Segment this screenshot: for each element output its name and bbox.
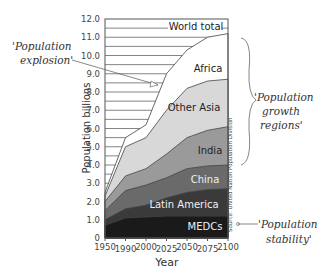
y-tick-label: 10.0 xyxy=(81,51,100,61)
growth-annotation-line3: regions' xyxy=(260,119,303,131)
world-total-label: World total xyxy=(169,21,224,32)
x-tick-label: 1990 xyxy=(115,244,137,254)
india-label: India xyxy=(198,145,223,156)
explosion-annotation-line1: 'Population xyxy=(12,40,72,52)
chart-root: 01.02.03.04.05.06.07.08.09.010.011.012.0… xyxy=(0,0,334,280)
x-axis-ticks: 1950199020002025205020752100 xyxy=(94,238,239,254)
africa-label: Africa xyxy=(194,63,223,74)
x-tick-label: 2050 xyxy=(176,242,198,252)
x-tick-label: 2000 xyxy=(135,242,157,252)
y-tick-label: 12.0 xyxy=(81,14,100,24)
x-tick-label: 1950 xyxy=(94,242,116,252)
y-tick-label: 2.0 xyxy=(86,197,100,207)
y-axis-label: Population billions xyxy=(81,83,92,174)
explosion-annotation-line2: explosion' xyxy=(20,54,73,66)
medcs-label: MEDCs xyxy=(188,221,223,232)
latin-america-label: Latin America xyxy=(149,199,218,210)
growth-annotation-line1: 'Population xyxy=(254,91,314,103)
y-tick-label: 11.0 xyxy=(81,32,100,42)
other-asia-label: Other Asia xyxy=(168,102,221,113)
x-tick-label: 2025 xyxy=(156,244,178,254)
x-tick-label: 2075 xyxy=(197,244,219,254)
stability-annotation-line1: 'Population xyxy=(258,218,318,230)
y-tick-label: 9.0 xyxy=(86,69,100,79)
stacked-area-chart: 01.02.03.04.05.06.07.08.09.010.011.012.0… xyxy=(0,0,334,280)
x-axis-label: Year xyxy=(154,256,179,269)
growth-annotation-line2: growth xyxy=(262,105,300,117)
stability-annotation-line2: stability' xyxy=(266,233,312,245)
x-tick-label: 2100 xyxy=(217,242,239,252)
explosion-arrow xyxy=(72,60,158,85)
source-note: Source: United Nation Population Divisio… xyxy=(227,117,234,232)
y-tick-label: 1.0 xyxy=(86,215,100,225)
china-label: China xyxy=(191,174,220,185)
explosion-arrowhead-icon xyxy=(150,81,158,87)
y-tick-label: 3.0 xyxy=(86,178,100,188)
